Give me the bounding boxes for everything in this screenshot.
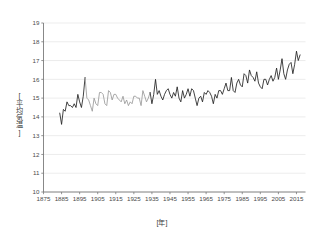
x-tick-label: 1995 — [253, 195, 267, 202]
x-tick-label: 1875 — [37, 195, 51, 202]
y-tick-label: 11 — [33, 169, 40, 176]
x-axis-title: [年] — [0, 211, 324, 229]
x-tick-label: 1985 — [235, 195, 249, 202]
x-tick-label: 1965 — [199, 195, 213, 202]
x-tick-label: 1915 — [109, 195, 123, 202]
y-tick-label: 16 — [33, 76, 40, 83]
x-tick-label: 1955 — [181, 195, 195, 202]
x-tick-label: 1945 — [163, 195, 177, 202]
x-tick-label: 2015 — [290, 195, 304, 202]
series-line-segment — [85, 77, 150, 111]
series-line-segment — [150, 51, 300, 105]
y-tick-label: 19 — [33, 19, 40, 26]
gridlines-group — [44, 23, 306, 192]
x-tick-label: 1895 — [73, 195, 87, 202]
temperature-line-chart: 10111213141516171819 1875188518951905191… — [0, 0, 324, 236]
x-tick-label: 1925 — [127, 195, 141, 202]
x-tick-label: 1905 — [91, 195, 105, 202]
x-tick-label: 2005 — [272, 195, 286, 202]
chart-canvas: 10111213141516171819 1875188518951905191… — [0, 0, 324, 236]
y-tick-label: 13 — [33, 132, 40, 139]
y-tick-label: 17 — [33, 57, 40, 64]
y-tick-label: 18 — [33, 38, 40, 45]
series-line-segment — [60, 77, 85, 124]
y-tick-label: 12 — [33, 151, 40, 158]
y-tick-labels-group: 10111213141516171819 — [33, 19, 40, 195]
data-series-group — [60, 51, 300, 124]
y-tick-label: 14 — [33, 113, 40, 120]
y-tick-label: 15 — [33, 94, 40, 101]
x-tick-labels-group: 1875188518951905191519251935194519551965… — [37, 195, 304, 202]
axes-group — [41, 23, 305, 194]
x-tick-label: 1885 — [55, 195, 69, 202]
x-tick-label: 1975 — [217, 195, 231, 202]
y-tick-label: 10 — [33, 188, 40, 195]
x-axis-title-text: [年] — [157, 218, 168, 227]
x-tick-label: 1935 — [145, 195, 159, 202]
